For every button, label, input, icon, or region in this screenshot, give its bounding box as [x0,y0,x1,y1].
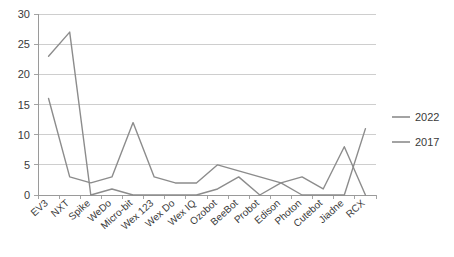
x-axis-tick-label: Jiadne [316,197,346,225]
legend-label-2017: 2017 [415,136,439,148]
series-line-2017 [49,32,366,195]
series-line-2022 [49,98,366,195]
gridlines-group [38,14,376,195]
y-axis-tick-label: 25 [18,38,30,50]
y-axis-tick-label: 10 [18,129,30,141]
y-axis-tick-label: 5 [24,159,30,171]
legend-label-2022: 2022 [415,111,439,123]
x-axis-tick-label: RCX [344,197,367,220]
yaxis-labels-group: 051015202530 [18,8,30,201]
line-chart: 051015202530 EV3NXTSpikeWeDoMicro-bitWex… [0,0,454,257]
y-axis-tick-label: 0 [24,189,30,201]
y-axis-tick-label: 15 [18,99,30,111]
x-axis-tick-label: EV3 [28,197,50,218]
xaxis-labels-group: EV3NXTSpikeWeDoMicro-bitWex 123Wex DoWex… [28,197,367,232]
y-axis-tick-label: 30 [18,8,30,20]
series-lines-group [49,32,366,195]
chart-canvas: 051015202530 EV3NXTSpikeWeDoMicro-bitWex… [0,0,454,257]
y-axis-tick-label: 20 [18,68,30,80]
chart-legend: 20222017 [392,111,439,148]
